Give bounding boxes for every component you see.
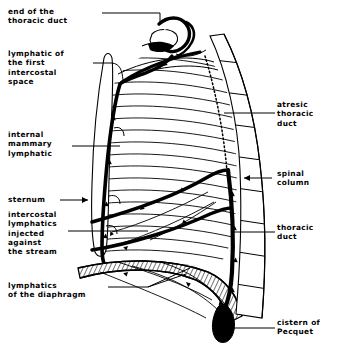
leader-end-of-thoracic-duct	[102, 13, 160, 22]
label-internal-mammary-lymphatic: internal mammary lymphatic	[8, 130, 52, 158]
label-atresic-thoracic-duct: atresic thoracic duct	[277, 100, 314, 128]
label-lymphatics-of-the-diaphragm: lymphatics of the diaphragm	[8, 281, 86, 300]
label-cistern-of-pecquet: cistern of Pecquet	[277, 318, 320, 337]
label-sternum: sternum	[8, 195, 45, 204]
label-lymphatic-first-intercostal-space: lymphatic of the first intercostal space	[8, 49, 64, 86]
label-intercostal-lymphatics-injected: intercostal lymphatics injected against …	[8, 210, 57, 256]
label-end-of-thoracic-duct: end of the thoracic duct	[8, 7, 67, 26]
label-spinal-column: spinal column	[277, 169, 309, 188]
anatomical-figure: end of the thoracic duct lymphatic of th…	[0, 0, 339, 344]
label-thoracic-duct: thoracic duct	[277, 223, 314, 242]
